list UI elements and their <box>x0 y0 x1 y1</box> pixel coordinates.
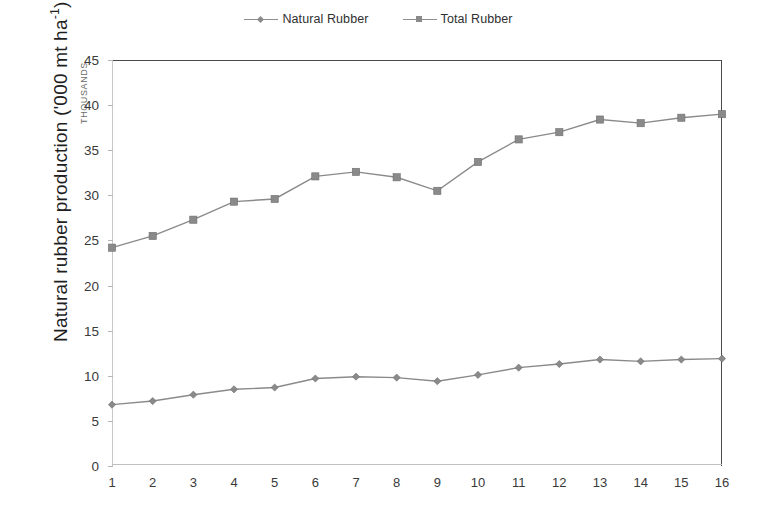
data-point-square-marker <box>393 174 400 181</box>
data-point-diamond-marker <box>108 401 115 408</box>
x-tick-label: 4 <box>230 466 237 490</box>
data-point-diamond-marker <box>556 360 563 367</box>
plot-area: 051015202530354045 123456789101112131415… <box>112 60 722 465</box>
x-tick-label: 10 <box>471 466 485 490</box>
y-axis-title: Natural rubber production ('000 mt ha-1) <box>48 0 71 382</box>
series-line <box>112 114 722 248</box>
data-point-diamond-marker <box>596 356 603 363</box>
x-tick-label: 11 <box>512 466 526 490</box>
x-tick-label: 9 <box>434 466 441 490</box>
x-tick-label: 2 <box>149 466 156 490</box>
x-tick-label: 8 <box>393 466 400 490</box>
data-point-square-marker <box>271 195 278 202</box>
data-point-diamond-marker <box>637 358 644 365</box>
legend-marker-square-icon <box>403 14 437 25</box>
chart-series-layer <box>112 60 722 466</box>
data-point-square-marker <box>474 158 481 165</box>
chart-legend: Natural Rubber Total Rubber <box>0 12 757 26</box>
legend-label-natural-rubber: Natural Rubber <box>282 12 368 26</box>
x-tick-label: 12 <box>552 466 566 490</box>
x-tick-label: 5 <box>271 466 278 490</box>
legend-label-total-rubber: Total Rubber <box>441 12 513 26</box>
y-axis-title-prefix: Natural rubber production ('000 mt ha <box>50 19 71 342</box>
legend-marker-diamond-icon <box>244 14 278 25</box>
legend-item-total-rubber[interactable]: Total Rubber <box>403 12 513 26</box>
series-total-rubber <box>108 111 725 252</box>
data-point-square-marker <box>637 120 644 127</box>
data-point-square-marker <box>596 116 603 123</box>
chart-figure: Natural Rubber Total Rubber Natural rubb… <box>0 0 757 525</box>
data-point-diamond-marker <box>474 371 481 378</box>
x-tick-label: 16 <box>715 466 729 490</box>
data-point-square-marker <box>515 136 522 143</box>
legend-item-natural-rubber[interactable]: Natural Rubber <box>244 12 368 26</box>
x-tick-label: 14 <box>633 466 647 490</box>
data-point-square-marker <box>149 232 156 239</box>
data-point-square-marker <box>718 111 725 118</box>
data-point-diamond-marker <box>434 378 441 385</box>
x-tick-label: 13 <box>593 466 607 490</box>
data-point-square-marker <box>352 168 359 175</box>
data-point-square-marker <box>434 187 441 194</box>
data-point-diamond-marker <box>393 374 400 381</box>
data-point-diamond-marker <box>352 373 359 380</box>
data-point-square-marker <box>108 244 115 251</box>
y-axis-title-suffix: ) <box>50 1 71 8</box>
data-point-diamond-marker <box>271 384 278 391</box>
y-axis-title-superscript: -1 <box>48 8 62 19</box>
x-tick-label: 6 <box>312 466 319 490</box>
data-point-diamond-marker <box>718 355 725 362</box>
x-tick-label: 3 <box>190 466 197 490</box>
data-point-diamond-marker <box>515 364 522 371</box>
data-point-diamond-marker <box>312 375 319 382</box>
data-point-square-marker <box>312 173 319 180</box>
data-point-square-marker <box>678 114 685 121</box>
data-point-square-marker <box>190 216 197 223</box>
data-point-diamond-marker <box>678 356 685 363</box>
data-point-square-marker <box>556 129 563 136</box>
series-natural-rubber <box>108 355 725 408</box>
data-point-diamond-marker <box>149 397 156 404</box>
data-point-square-marker <box>230 198 237 205</box>
series-line <box>112 359 722 405</box>
x-tick-label: 7 <box>352 466 359 490</box>
data-point-diamond-marker <box>230 386 237 393</box>
x-tick-label: 1 <box>108 466 115 490</box>
data-point-diamond-marker <box>190 391 197 398</box>
x-tick-label: 15 <box>674 466 688 490</box>
